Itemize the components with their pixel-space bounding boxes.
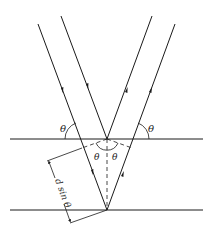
reflected-ray-lower [107,24,175,210]
dimension-extension-bottom [70,210,107,223]
reflected-ray-upper [107,16,152,139]
outer-angle-arc-left [65,123,76,139]
theta-label-inner-left: θ [94,152,100,162]
incident-ray-lower [38,24,107,210]
arrow-down-icon [91,169,93,175]
dimension-extension-top [47,148,82,161]
theta-label-top-left: θ [60,123,66,134]
perpendicular-dashed-right [107,139,132,148]
dimension-line-upper [49,162,55,178]
perpendicular-dashed-left [82,139,107,148]
theta-label-inner-right: θ [112,152,118,162]
arrow-down-icon [86,83,88,89]
bragg-diffraction-diagram: θ θ θ θ d sin θ [0,0,214,242]
arrow-up-icon [149,87,152,93]
incident-ray-upper [61,16,107,139]
path-difference-label: d sin θ [53,177,73,209]
theta-label-top-right: θ [148,123,154,134]
